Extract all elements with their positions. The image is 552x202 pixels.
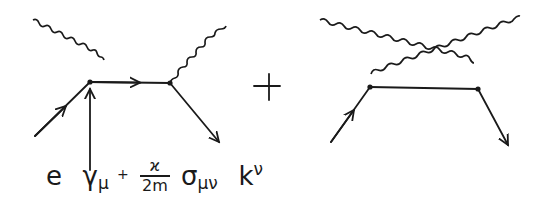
charge-symbol: e [46,163,62,189]
vertex-dot [367,84,372,89]
momentum-symbol: k [238,163,253,189]
propagator-line [370,87,478,89]
plus-operator [254,74,280,100]
outgoing-fermion-line [170,83,219,142]
sigma-symbol: σ [181,163,197,189]
fraction-numerator: ϰ [148,158,163,174]
sigma-indices: μν [198,175,218,192]
direct-diagram [33,19,226,170]
crossed-diagram [320,16,520,145]
incoming-photon-line [33,19,104,60]
gamma-symbol: γ [83,163,98,189]
fraction-denominator: 2m [140,178,170,194]
vertex-dot [475,86,480,91]
momentum-index: ν [253,161,263,178]
plus-symbol: + [117,167,129,181]
outgoing-photon-line [170,26,226,83]
outgoing-fermion-line [478,89,508,145]
vertex-factor-formula: e γμ + ϰ 2m σμν kν [46,160,263,200]
vertex-dot [87,79,92,84]
kappa-over-2m-fraction: ϰ 2m [140,158,170,194]
vertex-dot [167,80,172,85]
crossed-photon-line-b [371,16,520,74]
gamma-index: μ [98,175,109,192]
